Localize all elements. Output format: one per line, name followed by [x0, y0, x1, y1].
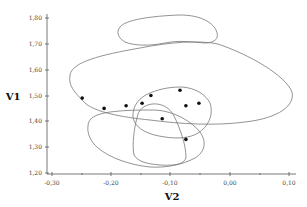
data-point: [149, 94, 153, 98]
x-tick-label: -0,30: [44, 179, 60, 186]
contour-top: [118, 15, 217, 45]
y-tick-label: 1,40: [29, 117, 43, 124]
y-tick-label: 1,30: [29, 143, 43, 150]
x-axis-title: V2: [164, 191, 180, 202]
data-point: [80, 96, 84, 100]
y-tick-labels: 1,20 1,30 1,40 1,50 1,60 1,70 1,80: [29, 14, 43, 176]
x-tick-label: -0,10: [162, 179, 178, 186]
x-tick-label: 0,00: [223, 179, 237, 186]
data-point: [184, 104, 188, 108]
contour-large: [70, 42, 293, 124]
x-tick-labels: -0,30 -0,20 -0,10 0,00 0,10: [44, 179, 296, 186]
data-point: [197, 102, 201, 106]
scatter-chart: 1,20 1,30 1,40 1,50 1,60 1,70 1,80 -0,30…: [0, 0, 307, 207]
data-point: [102, 107, 106, 111]
x-tick-label: -0,20: [103, 179, 119, 186]
data-point: [160, 117, 164, 121]
data-point: [178, 89, 182, 93]
contour-narrow: [133, 104, 186, 165]
data-point: [184, 138, 188, 142]
y-tick-label: 1,50: [29, 92, 43, 99]
y-tick-label: 1,80: [29, 14, 43, 21]
y-tick-label: 1,60: [29, 66, 43, 73]
data-point: [124, 104, 128, 108]
data-point: [140, 102, 144, 106]
x-tick-label: 0,10: [282, 179, 296, 186]
y-axis-title: V1: [5, 91, 21, 102]
y-tick-label: 1,70: [29, 40, 43, 47]
y-tick-label: 1,20: [29, 169, 43, 176]
